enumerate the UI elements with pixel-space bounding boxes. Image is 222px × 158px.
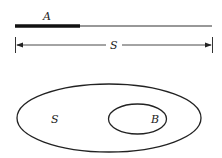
outer-set-s-label: S (51, 113, 59, 126)
inner-set-b-label: B (150, 113, 159, 126)
diagram-canvas: A S S B (0, 0, 222, 158)
subset-a-label: A (42, 10, 51, 23)
venn-diagram: S B (17, 84, 201, 152)
segment-diagram: A S (15, 10, 213, 53)
whole-s-label: S (110, 39, 118, 52)
